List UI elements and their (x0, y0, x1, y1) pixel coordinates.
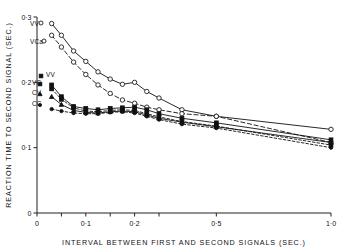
data-point-marker (157, 118, 160, 121)
data-point-marker (72, 111, 75, 114)
data-point-marker (49, 94, 53, 98)
data-point-marker (132, 101, 136, 105)
data-point-marker (133, 111, 136, 114)
data-point-marker (50, 107, 53, 110)
data-point-marker (214, 114, 218, 118)
data-point-marker (121, 110, 124, 113)
data-point-marker (329, 127, 333, 131)
data-point-marker (157, 96, 161, 100)
x-axis-title: INTERVAL BETWEEN FIRST AND SECOND SIGNAL… (62, 238, 306, 247)
x-axis-tick-label: 0·5 (211, 220, 221, 227)
data-point-marker (60, 109, 63, 112)
series-label-vva: VV (30, 20, 39, 27)
data-point-marker (120, 98, 124, 102)
data-point-marker (108, 77, 112, 81)
x-axis-tick-label: 0·2 (130, 220, 140, 227)
data-point-marker (108, 91, 112, 95)
y-axis-tick-label: 0·2 (21, 79, 31, 86)
data-point-marker (50, 83, 54, 87)
series-line-vca (52, 35, 331, 142)
data-point-marker (50, 87, 54, 91)
series-label-marker (42, 39, 46, 43)
data-point-marker (84, 72, 88, 76)
data-point-marker (84, 112, 87, 115)
data-point-marker (59, 33, 63, 37)
data-point-marker (60, 97, 64, 101)
data-point-marker (109, 111, 112, 114)
data-point-marker (96, 112, 99, 115)
data-point-marker (132, 80, 136, 84)
data-point-marker (59, 45, 63, 49)
data-point-marker (145, 89, 149, 93)
data-point-marker (84, 59, 88, 63)
figure-container: 00·10·20·300·10·20·51·0VVVCaVVVCCVCCINTE… (0, 0, 342, 251)
data-point-marker (96, 70, 100, 74)
data-point-marker (71, 60, 75, 64)
data-point-marker (49, 21, 53, 25)
y-axis-tick-label: 0·1 (21, 144, 31, 151)
y-axis-title: REACTION TIME TO SECOND SIGNAL (SEC.) (4, 22, 13, 208)
series-label-marker (38, 82, 42, 86)
series-line-cc (52, 109, 331, 148)
line-chart: 00·10·20·300·10·20·51·0VVVCaVVVCCVCCINTE… (0, 0, 342, 251)
series-label-vca: VCa (30, 38, 43, 45)
x-axis-tick-label: 1·0 (326, 220, 336, 227)
data-point-marker (180, 111, 184, 115)
data-point-marker (180, 122, 183, 125)
y-axis-tick-label: 0 (28, 210, 32, 217)
data-point-marker (145, 108, 149, 112)
data-point-marker (120, 82, 124, 86)
data-point-marker (157, 108, 161, 112)
data-point-marker (145, 115, 148, 118)
series-label-marker (39, 21, 43, 25)
series-label-marker (38, 103, 41, 106)
series-label-marker (39, 74, 43, 78)
data-point-marker (329, 146, 332, 149)
data-point-marker (215, 126, 218, 129)
x-axis-tick-label: 0·1 (81, 220, 91, 227)
data-point-marker (49, 33, 53, 37)
data-point-marker (71, 49, 75, 53)
series-label-vv: VV (46, 71, 55, 78)
data-point-marker (96, 83, 100, 87)
x-axis-tick-label: 0 (35, 220, 39, 227)
